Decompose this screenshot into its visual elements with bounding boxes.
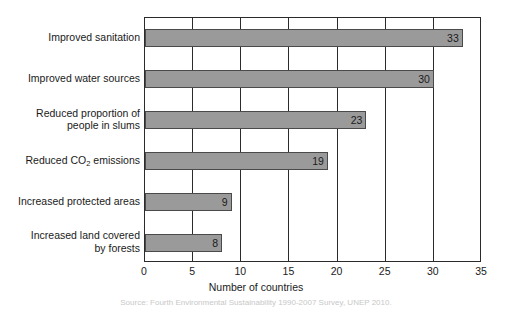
- category-label: Improved water sources: [0, 72, 140, 85]
- gridline-15: [288, 18, 289, 261]
- x-tick-label-5: 5: [177, 265, 207, 277]
- category-label-line: people in slums: [0, 119, 140, 132]
- gridline-5: [192, 18, 193, 261]
- bar-row: 33: [145, 29, 482, 47]
- category-label-line: Reduced proportion of: [0, 107, 140, 120]
- category-label: Reduced CO2 emissions: [0, 154, 140, 169]
- bar-value-label: 23: [326, 111, 366, 129]
- bar-row: 30: [145, 70, 482, 88]
- bar: [145, 29, 463, 47]
- bar-value-label: 30: [394, 70, 434, 88]
- bar-value-label: 9: [192, 193, 232, 211]
- plot-area: 3330231998: [144, 17, 481, 262]
- x-tick-label-15: 15: [273, 265, 303, 277]
- x-tick-label-35: 35: [466, 265, 496, 277]
- category-label: Increased protected areas: [0, 195, 140, 208]
- x-tick-label-25: 25: [370, 265, 400, 277]
- bar-value-label: 33: [423, 29, 463, 47]
- bar-row: 9: [145, 193, 482, 211]
- category-label: Increased land coveredby forests: [0, 229, 140, 254]
- x-tick-label-0: 0: [129, 265, 159, 277]
- x-axis-title: Number of countries: [0, 281, 512, 293]
- category-label-line: Improved sanitation: [0, 31, 140, 44]
- category-label-line: by forests: [0, 242, 140, 255]
- x-tick-label-30: 30: [418, 265, 448, 277]
- x-tick-label-20: 20: [322, 265, 352, 277]
- gridline-10: [240, 18, 241, 261]
- bar-row: 19: [145, 152, 482, 170]
- category-label: Improved sanitation: [0, 31, 140, 44]
- bar-row: 23: [145, 111, 482, 129]
- category-label-line: Increased land covered: [0, 229, 140, 242]
- gridline-30: [433, 18, 434, 261]
- category-label: Reduced proportion ofpeople in slums: [0, 107, 140, 132]
- bar-value-label: 8: [182, 234, 222, 252]
- bar-row: 8: [145, 234, 482, 252]
- x-tick-label-10: 10: [225, 265, 255, 277]
- category-label-line: Reduced CO2 emissions: [0, 154, 140, 169]
- bar-value-label: 19: [288, 152, 328, 170]
- bar: [145, 70, 434, 88]
- gridline-25: [385, 18, 386, 261]
- bar-chart-figure: 3330231998 Improved sanitationImproved w…: [0, 0, 512, 309]
- category-label-line: Increased protected areas: [0, 195, 140, 208]
- category-label-line: Improved water sources: [0, 72, 140, 85]
- source-caption: Source: Fourth Environmental Sustainabil…: [0, 298, 512, 307]
- gridline-20: [337, 18, 338, 261]
